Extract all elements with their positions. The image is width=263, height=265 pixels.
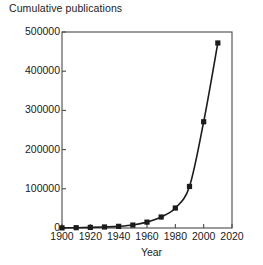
data-point-marker	[187, 184, 192, 189]
axes-box	[62, 32, 232, 228]
data-markers	[59, 40, 220, 230]
data-point-marker	[215, 40, 220, 45]
data-point-marker	[102, 224, 107, 229]
data-point-marker	[173, 205, 178, 210]
x-axis-label-text: Year	[141, 246, 162, 258]
x-axis-label: Year	[0, 246, 263, 258]
y-tick-marks	[62, 32, 66, 228]
plot-area	[0, 0, 263, 265]
plot-frame	[62, 32, 232, 228]
data-point-marker	[74, 225, 79, 230]
data-point-marker	[88, 225, 93, 230]
chart-figure: Cumulative publications 0100000200000300…	[0, 0, 263, 265]
data-point-marker	[144, 220, 149, 225]
data-point-marker	[159, 214, 164, 219]
data-point-marker	[201, 119, 206, 124]
data-line-cumulative-publications	[62, 43, 218, 228]
data-point-marker	[59, 225, 64, 230]
data-point-marker	[116, 224, 121, 229]
data-point-marker	[130, 222, 135, 227]
